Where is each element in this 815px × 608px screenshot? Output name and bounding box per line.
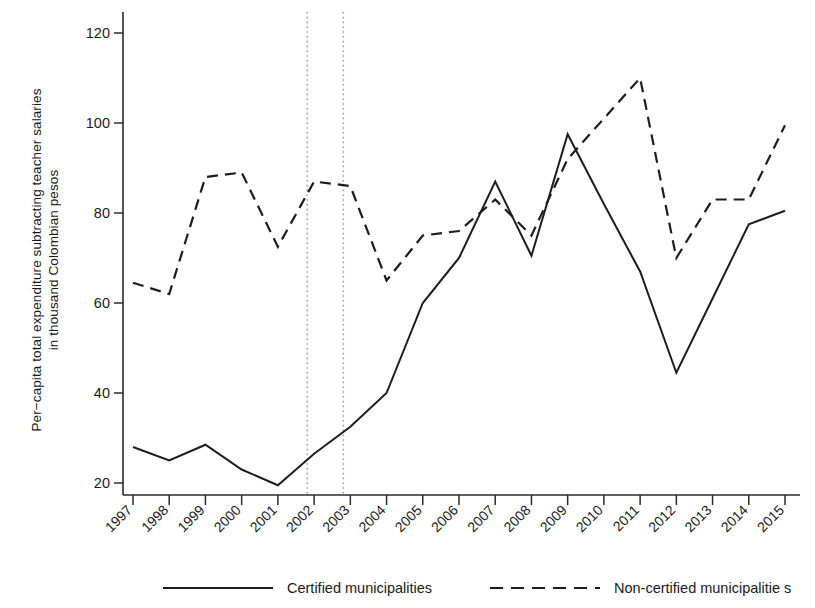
y-tick-label: 20 [94, 475, 110, 491]
y-tick-label: 60 [94, 295, 110, 311]
line-chart-plot: 20406080100120 1997199819992000200120022… [0, 0, 815, 608]
x-tick-label: 2005 [392, 502, 425, 535]
series-certified-municipalities [133, 134, 785, 485]
x-tick-label: 2004 [355, 502, 388, 535]
chart-legend: Certified municipalities Non-certified m… [163, 580, 791, 596]
y-tick-label: 120 [86, 25, 110, 41]
x-tick-label: 2008 [500, 502, 533, 535]
series-non-certified-municipalities [133, 78, 785, 294]
y-axis-ticks: 20406080100120 [86, 25, 123, 491]
legend-label-certified: Certified municipalities [287, 580, 432, 596]
y-tick-label: 40 [94, 385, 110, 401]
x-tick-label: 2000 [210, 502, 243, 535]
reference-lines [307, 12, 343, 495]
x-tick-label: 2002 [283, 502, 316, 535]
legend-label-non-certified: Non-certified municipalitie s [614, 580, 791, 596]
y-tick-label: 80 [94, 205, 110, 221]
chart-figure: Per−capita total expenditure subtracting… [0, 0, 815, 608]
y-tick-label: 100 [86, 115, 110, 131]
x-tick-label: 2007 [464, 502, 497, 535]
x-axis-ticks: 1997199819992000200120022003200420052006… [102, 495, 787, 535]
x-tick-label: 1997 [102, 502, 135, 535]
x-tick-label: 2012 [645, 502, 678, 535]
x-tick-label: 2014 [718, 502, 751, 535]
x-tick-label: 2013 [681, 502, 714, 535]
x-tick-label: 2010 [573, 502, 606, 535]
x-tick-label: 2011 [610, 502, 643, 535]
x-tick-label: 2001 [247, 502, 280, 535]
x-tick-label: 2003 [319, 502, 352, 535]
x-tick-label: 1999 [174, 502, 207, 535]
x-tick-label: 2009 [536, 502, 569, 535]
x-tick-label: 2006 [428, 502, 461, 535]
x-tick-label: 1998 [138, 502, 171, 535]
x-tick-label: 2015 [754, 502, 787, 535]
